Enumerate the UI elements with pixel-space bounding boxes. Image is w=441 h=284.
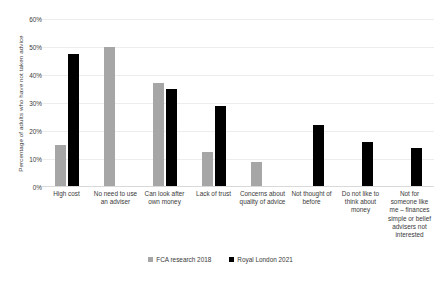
- bar: [362, 142, 373, 187]
- x-axis-label: Not thought of before: [287, 190, 336, 239]
- y-axis-tick-10: 10%: [29, 156, 42, 163]
- x-axis-label: Lack of trust: [189, 190, 238, 239]
- bar-chart-figure: Percentage of adults who have not taken …: [0, 0, 441, 284]
- bar-group: [385, 19, 434, 187]
- bar: [55, 145, 66, 187]
- bar: [166, 89, 177, 187]
- x-axis-label: Concerns about quality of advice: [238, 190, 287, 239]
- x-axis-category-labels: High costNo need to use an adviserCan lo…: [42, 190, 434, 239]
- x-axis-label: Not for someone like me – finances simpl…: [385, 190, 434, 239]
- bar: [251, 162, 262, 187]
- bar: [313, 125, 324, 187]
- y-axis-tick-20: 20%: [29, 128, 42, 135]
- plot-area: [42, 19, 434, 187]
- bar: [411, 148, 422, 187]
- bar-groups: [42, 19, 434, 187]
- x-axis-label: No need to use an adviser: [91, 190, 140, 239]
- y-axis-tick-0: 0%: [33, 184, 42, 191]
- bar: [68, 54, 79, 187]
- bar: [104, 47, 115, 187]
- legend-item[interactable]: Royal London 2021: [229, 256, 292, 263]
- y-axis-tick-labels: 60%50%40%30%20%10%0%: [18, 19, 42, 187]
- bar-group: [189, 19, 238, 187]
- bar-group: [91, 19, 140, 187]
- y-axis-tick-50: 50%: [29, 44, 42, 51]
- bar-group: [238, 19, 287, 187]
- y-axis-tick-30: 30%: [29, 100, 42, 107]
- x-axis-baseline: [42, 186, 434, 187]
- x-axis-label: High cost: [42, 190, 91, 239]
- legend-label: Royal London 2021: [237, 256, 292, 263]
- bar-group: [42, 19, 91, 187]
- legend-swatch-icon: [229, 257, 234, 262]
- bar-group: [336, 19, 385, 187]
- y-axis-tick-40: 40%: [29, 72, 42, 79]
- bar: [153, 83, 164, 187]
- bar: [202, 152, 213, 187]
- bar: [215, 106, 226, 187]
- bar-group: [140, 19, 189, 187]
- y-axis-tick-60: 60%: [29, 16, 42, 23]
- legend-label: FCA research 2018: [156, 256, 211, 263]
- chart-legend: FCA research 2018Royal London 2021: [0, 256, 441, 263]
- legend-swatch-icon: [148, 257, 153, 262]
- legend-item[interactable]: FCA research 2018: [148, 256, 211, 263]
- bar-group: [287, 19, 336, 187]
- x-axis-label: Do not like to think about money: [336, 190, 385, 239]
- x-axis-label: Can look after own money: [140, 190, 189, 239]
